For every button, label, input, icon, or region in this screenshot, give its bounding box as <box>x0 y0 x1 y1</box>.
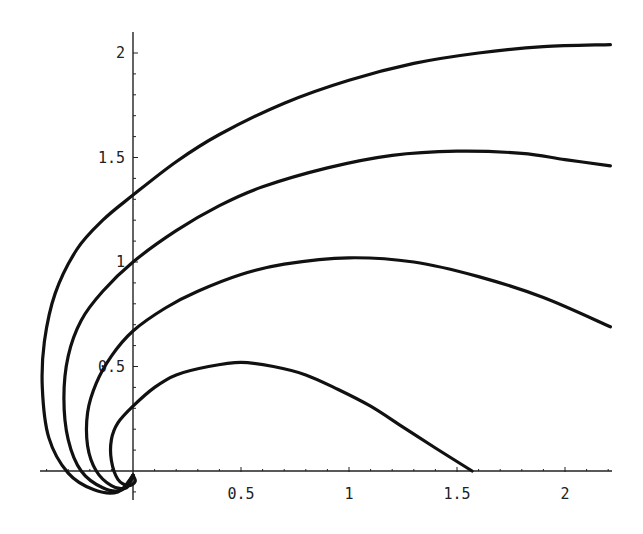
x-tick-label: 1.5 <box>443 485 470 503</box>
y-tick-label: 2 <box>116 44 125 62</box>
y-tick-label: 1.5 <box>98 149 125 167</box>
x-tick-label: 2 <box>560 485 569 503</box>
curve-2-line <box>87 258 611 489</box>
chart-plot-area: 0.511.520.511.52 <box>0 0 643 534</box>
curve-1-line <box>111 362 473 485</box>
x-tick-label: 0.5 <box>227 485 254 503</box>
x-tick-label: 1 <box>344 485 353 503</box>
curves <box>42 45 610 494</box>
tick-labels: 0.511.520.511.52 <box>98 44 570 503</box>
axis-ticks <box>47 53 609 492</box>
